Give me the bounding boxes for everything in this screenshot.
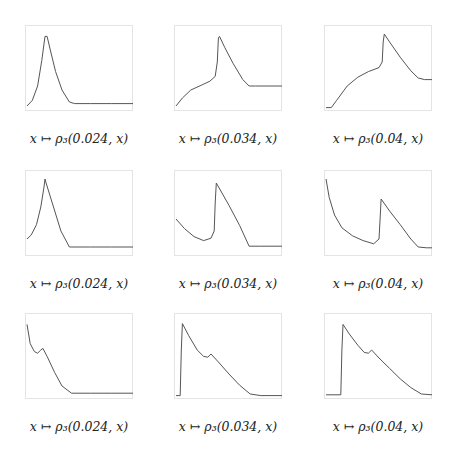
plot-frame [324, 313, 432, 399]
panel-caption: x ↦ ρ₃(0.034, x) [153, 276, 303, 291]
plot-frame [174, 25, 282, 111]
plot-frame [25, 25, 133, 111]
panel-caption: x ↦ ρ₃(0.04, x) [303, 131, 453, 146]
plot-area [175, 314, 283, 400]
plot-frame [25, 170, 133, 256]
density-curve [326, 324, 432, 394]
plot-frame [174, 170, 282, 256]
panel-caption: x ↦ ρ₃(0.024, x) [4, 276, 154, 291]
plot-area [175, 171, 283, 257]
panel-caption: x ↦ ρ₃(0.024, x) [4, 131, 154, 146]
plot-area [26, 26, 134, 112]
density-curve [176, 324, 282, 396]
density-curve [27, 324, 133, 393]
density-curve [27, 179, 133, 247]
density-curve [326, 179, 432, 248]
plot-area [26, 171, 134, 257]
plot-area [325, 314, 433, 400]
plot-area [325, 26, 433, 112]
panel-caption: x ↦ ρ₃(0.04, x) [303, 276, 453, 291]
panel-caption: x ↦ ρ₃(0.024, x) [4, 419, 154, 434]
density-curve [176, 183, 282, 246]
plot-frame [324, 170, 432, 256]
plot-area [26, 314, 134, 400]
plot-frame [324, 25, 432, 111]
plot-area [325, 171, 433, 257]
panel-caption: x ↦ ρ₃(0.034, x) [153, 419, 303, 434]
panel-caption: x ↦ ρ₃(0.034, x) [153, 131, 303, 146]
density-curve [326, 34, 432, 108]
density-curve [176, 36, 282, 106]
panel-caption: x ↦ ρ₃(0.04, x) [303, 419, 453, 434]
plot-frame [174, 313, 282, 399]
density-curve [27, 36, 133, 106]
plot-area [175, 26, 283, 112]
plot-frame [25, 313, 133, 399]
